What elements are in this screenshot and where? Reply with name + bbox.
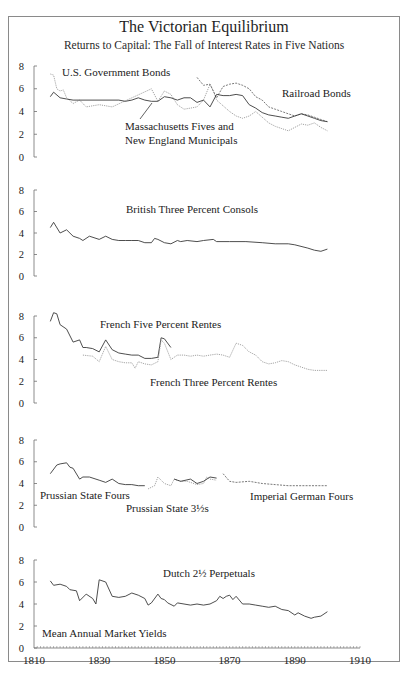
x-tick-label: 1890 <box>284 654 307 666</box>
x-tick-label: 1850 <box>153 654 176 666</box>
x-tick-label: 1910 <box>349 654 372 666</box>
label-imperial-german-fours: Imperial German Fours <box>250 490 353 502</box>
y-tick-label: 6 <box>19 456 24 467</box>
y-tick-label: 2 <box>19 249 24 260</box>
x-tick-label: 1870 <box>219 654 242 666</box>
y-tick-label: 8 <box>19 435 24 446</box>
y-tick-label: 4 <box>19 354 25 365</box>
label-british-consols: British Three Percent Consols <box>126 203 258 215</box>
label-prussian-three-half: Prussian State 3½s <box>126 502 209 514</box>
series-line <box>83 340 328 371</box>
y-tick-label: 6 <box>19 332 24 343</box>
chart-plot-area: 0246802468024680246802468181018301850187… <box>0 0 408 688</box>
label-massachusetts-fives: Massachusetts Fives and <box>125 120 234 132</box>
y-tick-label: 2 <box>19 621 24 632</box>
y-tick-label: 8 <box>19 311 24 322</box>
y-tick-label: 2 <box>19 129 24 140</box>
y-tick-label: 0 <box>19 152 24 163</box>
y-tick-label: 4 <box>19 478 25 489</box>
label-mean-annual-yields: Mean Annual Market Yields <box>42 627 167 639</box>
y-tick-label: 0 <box>19 522 24 533</box>
leader-line <box>140 103 152 119</box>
series-line <box>148 477 217 489</box>
y-tick-label: 6 <box>19 577 24 588</box>
series-line <box>50 580 327 619</box>
y-tick-label: 8 <box>19 185 24 196</box>
series-line <box>223 474 327 486</box>
y-tick-label: 2 <box>19 376 24 387</box>
y-tick-label: 4 <box>19 599 25 610</box>
label-new-england-municipals: New England Municipals <box>125 134 237 146</box>
series-line <box>50 463 145 486</box>
series-line <box>50 222 327 251</box>
series-line <box>174 477 216 484</box>
label-french-five: French Five Percent Rentes <box>100 318 221 330</box>
x-tick-label: 1810 <box>23 654 46 666</box>
y-tick-label: 0 <box>19 271 24 282</box>
y-tick-label: 0 <box>19 643 24 654</box>
y-tick-label: 6 <box>19 206 24 217</box>
y-tick-label: 4 <box>19 228 25 239</box>
y-tick-label: 8 <box>19 555 24 566</box>
label-french-three: French Three Percent Rentes <box>150 376 277 388</box>
x-tick-label: 1830 <box>88 654 111 666</box>
label-railroad-bonds: Railroad Bonds <box>282 87 351 99</box>
label-us-government-bonds: U.S. Government Bonds <box>62 66 170 78</box>
y-tick-label: 4 <box>19 106 25 117</box>
label-dutch-perpetuals: Dutch 2½ Perpetuals <box>163 567 255 579</box>
y-tick-label: 6 <box>19 83 24 94</box>
y-tick-label: 0 <box>19 398 24 409</box>
y-tick-label: 8 <box>19 61 24 72</box>
label-prussian-fours: Prussian State Fours <box>40 489 130 501</box>
y-tick-label: 2 <box>19 500 24 511</box>
